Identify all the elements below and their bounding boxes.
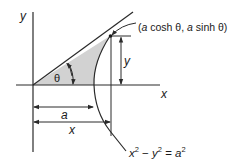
x-axis-label: x <box>160 87 168 101</box>
point-coordinate-label: (a cosh θ, a sinh θ) <box>138 21 227 33</box>
hyperbola-equation-label: x2 − y2 = a2 <box>128 145 186 159</box>
a-dimension-label: a <box>61 108 68 122</box>
y-axis-label: y <box>19 9 27 23</box>
point-marker <box>109 34 113 38</box>
theta-label: θ <box>54 72 60 84</box>
shaded-sector <box>33 36 110 85</box>
y-dimension-label: y <box>123 54 131 68</box>
hyperbola-diagram: y x θ y a x (a cosh θ, a sinh θ) x2 − y2… <box>0 0 241 168</box>
x-dimension-label: x <box>68 123 76 137</box>
